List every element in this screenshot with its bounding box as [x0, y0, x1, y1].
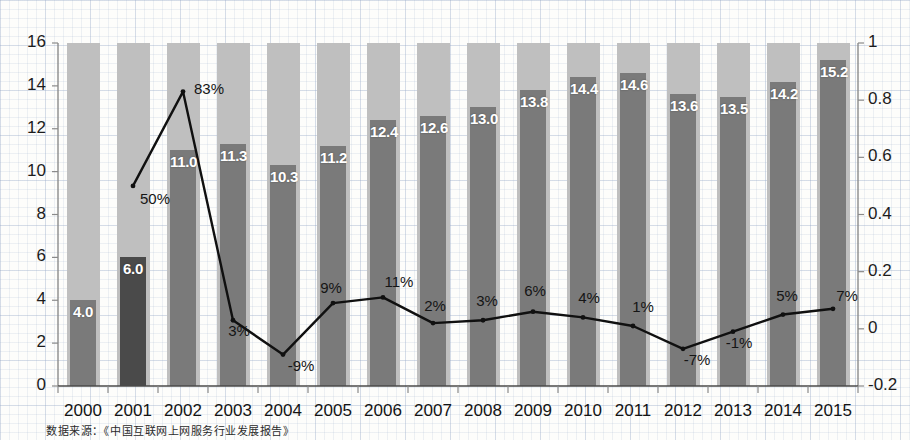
- y2-axis-tick-label: 0.4: [868, 204, 910, 224]
- x-axis-year-label: 2008: [458, 401, 508, 421]
- growth-rate-label: 50%: [130, 190, 180, 207]
- growth-rate-label: -7%: [672, 351, 722, 368]
- y2-axis-tick-label: -0.2: [868, 375, 910, 395]
- y2-axis-tick-label: 0: [868, 318, 910, 338]
- y2-axis-tick-label: 0.2: [868, 261, 910, 281]
- bar[interactable]: [370, 120, 396, 386]
- y2-axis-tick-label: 1: [868, 32, 910, 52]
- x-axis-year-label: 2014: [758, 401, 808, 421]
- y-axis-tick-label: 8: [6, 204, 46, 224]
- bar-value-label: 11.2: [320, 149, 346, 166]
- x-axis-year-label: 2000: [58, 401, 108, 421]
- y-axis-tick-label: 0: [6, 375, 46, 395]
- bar-value-label: 11.3: [220, 147, 246, 164]
- x-axis-year-label: 2007: [408, 401, 458, 421]
- bar[interactable]: [220, 144, 246, 386]
- chart-canvas: 4.06.011.011.310.311.212.412.613.013.814…: [0, 0, 910, 440]
- bar-value-label: 14.2: [770, 85, 796, 102]
- x-axis-year-label: 2011: [608, 401, 658, 421]
- y-axis-tick-label: 12: [6, 118, 46, 138]
- growth-rate-label: 4%: [564, 289, 614, 306]
- y-axis-tick-label: 10: [6, 161, 46, 181]
- bar-value-label: 14.6: [620, 76, 646, 93]
- y-axis-tick-label: 6: [6, 246, 46, 266]
- bar[interactable]: [570, 77, 596, 386]
- bar-value-label: 13.0: [470, 110, 496, 127]
- growth-rate-label: 7%: [822, 287, 872, 304]
- bar-value-label: 12.4: [370, 123, 396, 140]
- bar[interactable]: [770, 82, 796, 386]
- growth-rate-label: 6%: [510, 282, 560, 299]
- x-axis-year-label: 2012: [658, 401, 708, 421]
- bar-value-label: 10.3: [270, 168, 296, 185]
- x-axis-year-label: 2015: [808, 401, 858, 421]
- y-axis-tick-label: 14: [6, 75, 46, 95]
- y2-axis-tick-label: 0.6: [868, 146, 910, 166]
- bar[interactable]: [820, 60, 846, 386]
- bar-value-label: 14.4: [570, 80, 596, 97]
- bar[interactable]: [320, 146, 346, 386]
- growth-rate-label: 2%: [410, 297, 460, 314]
- growth-rate-label: 83%: [184, 80, 234, 97]
- bar[interactable]: [420, 116, 446, 386]
- bar-value-label: 6.0: [120, 260, 146, 277]
- y-axis-tick-label: 2: [6, 332, 46, 352]
- y-axis-tick-label: 16: [6, 32, 46, 52]
- bar[interactable]: [270, 165, 296, 386]
- x-axis-year-label: 2001: [108, 401, 158, 421]
- x-axis-year-label: 2002: [158, 401, 208, 421]
- bar-value-label: 12.6: [420, 119, 446, 136]
- x-axis-year-label: 2006: [358, 401, 408, 421]
- growth-rate-label: 3%: [462, 292, 512, 309]
- x-axis-year-label: 2004: [258, 401, 308, 421]
- bar-value-label: 11.0: [170, 153, 196, 170]
- bar[interactable]: [620, 73, 646, 386]
- y2-axis-tick-label: 0.8: [868, 89, 910, 109]
- bar[interactable]: [170, 150, 196, 386]
- bar-value-label: 4.0: [70, 303, 96, 320]
- bar-value-label: 13.5: [720, 100, 746, 117]
- bar-value-label: 15.2: [820, 63, 846, 80]
- bar-value-label: 13.8: [520, 93, 546, 110]
- growth-rate-label: -9%: [276, 357, 326, 374]
- x-axis-year-label: 2003: [208, 401, 258, 421]
- x-axis-year-label: 2010: [558, 401, 608, 421]
- x-axis-year-label: 2009: [508, 401, 558, 421]
- growth-rate-label: 5%: [762, 287, 812, 304]
- bar[interactable]: [470, 107, 496, 386]
- bar[interactable]: [670, 94, 696, 386]
- bar[interactable]: [520, 90, 546, 386]
- x-axis-year-label: 2005: [308, 401, 358, 421]
- growth-rate-label: 3%: [214, 322, 264, 339]
- y-axis-tick-label: 4: [6, 289, 46, 309]
- growth-rate-label: -1%: [714, 334, 764, 351]
- growth-rate-label: 11%: [374, 273, 424, 290]
- bar-value-label: 13.6: [670, 97, 696, 114]
- growth-rate-label: 1%: [618, 298, 668, 315]
- source-footnote: 数据来源：《中国互联网上网服务行业发展报告》: [46, 422, 294, 438]
- x-axis-year-label: 2013: [708, 401, 758, 421]
- growth-rate-label: 9%: [306, 279, 356, 296]
